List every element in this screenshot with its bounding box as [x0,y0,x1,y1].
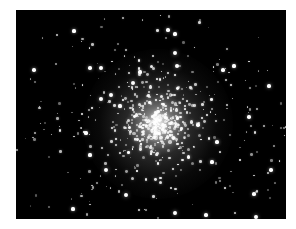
star [194,83,197,86]
star [182,152,185,155]
star [256,108,258,110]
star [71,112,73,114]
star [229,185,231,187]
star [215,162,218,165]
star [67,172,68,173]
star [246,131,248,133]
star [124,127,127,130]
star [80,195,82,197]
star [270,159,273,162]
star [213,136,215,138]
star [146,141,148,143]
star [117,113,119,115]
star [72,29,75,32]
star [174,188,176,190]
star [263,125,265,127]
star [225,68,226,69]
star [139,123,141,125]
star [137,86,138,87]
star [89,47,91,49]
star [56,117,58,119]
star [78,120,80,122]
star [138,103,141,106]
star [168,15,170,17]
star [186,87,187,88]
star [176,87,179,90]
star [267,84,271,88]
star [267,172,269,174]
star [226,48,228,50]
star [279,160,281,162]
star [131,177,134,180]
star [16,149,18,151]
star [190,120,193,123]
star [168,140,171,143]
star [129,107,131,109]
star [196,123,200,127]
star [106,186,107,187]
star [130,100,132,102]
star [108,100,110,102]
star [142,19,144,21]
star [166,93,168,95]
star [92,186,95,189]
star [179,112,181,114]
star [154,145,155,146]
star [99,97,103,101]
star [73,136,75,138]
star [112,121,114,123]
star [200,91,201,92]
star [280,102,283,105]
star [166,28,170,32]
star [221,68,225,72]
star [103,91,105,93]
star [136,164,139,167]
star [215,181,217,183]
star [157,131,158,132]
star [189,112,191,114]
star [136,138,139,141]
star [162,145,165,148]
star [138,209,140,211]
star [208,137,211,140]
star [156,94,157,95]
star [43,129,45,131]
star [157,162,159,164]
star [255,85,257,87]
star [173,108,174,109]
star [59,129,61,131]
star [193,104,196,107]
star [89,134,90,135]
star [168,122,170,124]
star [199,160,202,163]
star [71,207,74,210]
star [232,98,233,99]
star [165,37,167,39]
star [124,108,125,109]
star [219,151,221,153]
star [72,46,73,47]
star [167,96,169,98]
star [59,126,60,127]
star [201,117,203,119]
star [188,81,189,82]
star [157,107,159,109]
star [138,70,141,73]
star [127,151,130,154]
star [91,43,94,46]
star [254,131,257,134]
star [58,102,61,105]
star [100,26,102,28]
star [210,98,212,100]
star [167,90,170,93]
star [244,140,245,141]
star [104,162,107,165]
star [101,147,103,149]
star [109,93,113,97]
star [193,146,195,148]
star [159,119,160,120]
star [81,38,84,41]
star [55,63,56,64]
star [162,106,164,108]
star [86,213,88,215]
